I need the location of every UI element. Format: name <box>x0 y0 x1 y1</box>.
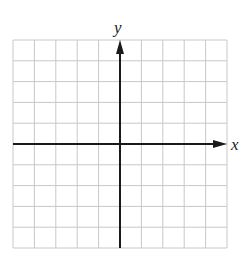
x-axis-label: x <box>230 135 239 154</box>
y-axis-label: y <box>112 18 122 37</box>
y-axis-arrowhead-icon <box>116 40 124 54</box>
x-axis-arrowhead-icon <box>213 140 227 148</box>
coordinate-plane: x y <box>0 0 244 260</box>
